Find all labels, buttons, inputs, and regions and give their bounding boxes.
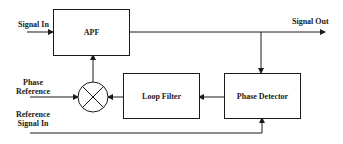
mixer-symbol bbox=[78, 82, 108, 112]
phase-reference-line2: Reference bbox=[10, 87, 56, 96]
loop-filter-block: Loop Filter bbox=[123, 73, 200, 119]
phase-reference-label: Phase Reference bbox=[10, 78, 56, 96]
phase-reference-line1: Phase bbox=[10, 78, 56, 87]
reference-signal-in-label: Reference Signal In bbox=[10, 110, 56, 128]
loop-filter-label: Loop Filter bbox=[142, 92, 181, 101]
reference-signal-in-line2: Signal In bbox=[10, 119, 56, 128]
phase-detector-label: Phase Detector bbox=[237, 92, 288, 101]
block-diagram: APF Loop Filter Phase Detector Signal In… bbox=[0, 0, 343, 144]
reference-signal-in-arrow bbox=[30, 118, 262, 133]
reference-signal-in-line1: Reference bbox=[10, 110, 56, 119]
phase-detector-block: Phase Detector bbox=[224, 73, 301, 119]
signal-in-label: Signal In bbox=[18, 20, 49, 29]
apf-label: APF bbox=[84, 28, 100, 37]
signal-out-label: Signal Out bbox=[292, 17, 329, 26]
apf-block: APF bbox=[53, 9, 130, 56]
